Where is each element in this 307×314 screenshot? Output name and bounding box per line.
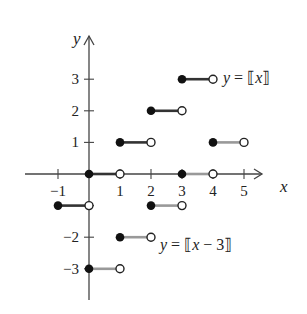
- x-axis-label: x: [279, 177, 288, 196]
- y-tick-label: 1: [72, 134, 80, 150]
- x-tick-label: −1: [50, 183, 66, 199]
- closed-dot-icon: [147, 201, 156, 210]
- y-axis-label: y: [71, 29, 81, 48]
- open-dot-icon: [85, 202, 93, 210]
- closed-dot-icon: [116, 233, 125, 242]
- step-function-chart: x y −112345−3−2123 y = ⟦x⟧ y = ⟦x − 3⟧: [0, 0, 307, 314]
- open-dot-icon: [116, 265, 124, 273]
- y-tick-label: 3: [72, 71, 80, 87]
- x-tick-label: 4: [209, 183, 217, 199]
- x-tick-label: 3: [178, 183, 186, 199]
- closed-dot-icon: [54, 201, 63, 210]
- equation-label-floor-x-minus-3: y = ⟦x − 3⟧: [158, 236, 232, 254]
- open-dot-icon: [178, 107, 186, 115]
- y-tick-label: −3: [63, 261, 79, 277]
- y-tick-label: 2: [72, 103, 80, 119]
- closed-dot-icon: [85, 265, 94, 274]
- closed-dot-icon: [178, 170, 187, 179]
- open-dot-icon: [178, 202, 186, 210]
- open-dot-icon: [240, 138, 248, 146]
- open-dot-icon: [147, 138, 155, 146]
- equation-label-floor-x: y = ⟦x⟧: [221, 69, 270, 87]
- x-tick-label: 1: [116, 183, 124, 199]
- x-tick-label: 5: [240, 183, 248, 199]
- closed-dot-icon: [147, 107, 156, 116]
- y-tick-label: −2: [63, 229, 79, 245]
- closed-dot-icon: [178, 75, 187, 84]
- x-tick-label: 2: [147, 183, 155, 199]
- open-dot-icon: [209, 75, 217, 83]
- closed-dot-icon: [85, 170, 94, 179]
- closed-dot-icon: [209, 138, 218, 147]
- closed-dot-icon: [116, 138, 125, 147]
- open-dot-icon: [116, 170, 124, 178]
- open-dot-icon: [209, 170, 217, 178]
- open-dot-icon: [147, 233, 155, 241]
